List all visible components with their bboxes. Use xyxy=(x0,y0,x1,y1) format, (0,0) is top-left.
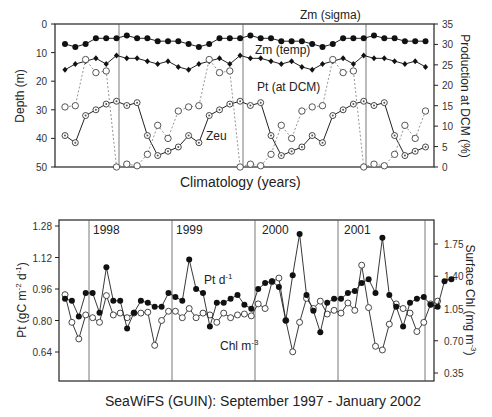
marker-filled-circle xyxy=(269,278,275,284)
marker-open-circle xyxy=(381,163,387,169)
marker-filled-circle xyxy=(373,290,379,296)
marker-filled-circle xyxy=(255,286,261,292)
marker-filled-circle xyxy=(428,302,434,308)
marker-filled-circle xyxy=(117,298,123,304)
marker-filled-circle xyxy=(175,38,181,44)
marker-open-circle xyxy=(62,104,68,110)
y-tick-label: 50 xyxy=(36,162,48,173)
marker-diamond xyxy=(248,55,253,61)
label-chl-m: Chl m-3 xyxy=(220,338,259,353)
marker-open-circle xyxy=(227,68,233,74)
marker-open-circle xyxy=(159,317,165,323)
marker-filled-circle xyxy=(324,300,330,306)
marker-open-circle xyxy=(241,311,247,317)
marker-open-circle xyxy=(237,164,243,170)
marker-open-circle xyxy=(359,262,365,268)
marker-open-circle xyxy=(258,163,264,169)
series-line xyxy=(65,234,451,332)
marker-open-circle xyxy=(262,306,268,312)
bottom-x-axis-label: SeaWiFS (GUIN): September 1997 - January… xyxy=(105,393,421,409)
marker-diamond xyxy=(176,64,181,70)
marker-diamond xyxy=(423,64,428,70)
y-right-tick-label: 10 xyxy=(442,121,454,132)
marker-filled-circle xyxy=(165,38,171,44)
marker-open-circle xyxy=(72,103,78,109)
marker-open-circle xyxy=(196,103,202,109)
marker-open-circle xyxy=(290,349,296,355)
marker-filled-circle xyxy=(423,38,429,44)
marker-filled-circle xyxy=(237,35,243,41)
marker-filled-circle xyxy=(124,325,130,331)
marker-open-circle xyxy=(216,69,222,75)
marker-open-circle xyxy=(400,306,406,312)
y-tick-label: 0.96 xyxy=(33,284,53,295)
marker-open-circle xyxy=(152,342,158,348)
top-series xyxy=(62,32,429,170)
label-pt-dcm: Pt (at DCM) xyxy=(257,80,320,94)
marker-diamond xyxy=(299,64,304,70)
marker-open-circle xyxy=(268,151,274,157)
marker-diamond xyxy=(413,58,418,64)
marker-open-circle xyxy=(76,336,82,342)
bottom-left-axis-ticks: 1.281.120.960.800.64 xyxy=(33,221,59,358)
marker-filled-circle xyxy=(297,231,303,237)
label-zeu: Zeu xyxy=(206,129,227,143)
marker-diamond xyxy=(124,55,129,61)
marker-filled-circle xyxy=(166,290,172,296)
marker-open-circle xyxy=(278,122,284,128)
marker-open-circle xyxy=(221,310,227,316)
marker-open-circle xyxy=(103,293,109,299)
marker-filled-circle xyxy=(228,296,234,302)
marker-filled-circle xyxy=(83,41,89,47)
marker-open-circle xyxy=(309,104,315,110)
marker-open-circle xyxy=(206,56,212,62)
marker-filled-circle xyxy=(393,304,399,310)
marker-filled-circle xyxy=(352,288,358,294)
y-right-tick-label: 0.35 xyxy=(444,368,464,379)
marker-filled-circle xyxy=(366,276,372,282)
y-right-tick-label: 35 xyxy=(442,19,454,30)
marker-diamond xyxy=(289,58,294,64)
bottom-series xyxy=(62,231,454,355)
marker-filled-circle xyxy=(283,318,289,324)
year-label-1999: 1999 xyxy=(176,223,203,237)
marker-filled-circle xyxy=(340,35,346,41)
marker-diamond xyxy=(310,67,315,73)
marker-filled-circle xyxy=(247,32,253,38)
marker-filled-circle xyxy=(392,35,398,41)
marker-open-circle xyxy=(110,312,116,318)
marker-open-circle xyxy=(113,164,119,170)
figure: 01020304050 05101520253035 Zm (sigma) Zm… xyxy=(0,0,492,417)
marker-open-circle xyxy=(172,308,178,314)
marker-diamond xyxy=(279,61,284,67)
y-tick-label: 10 xyxy=(36,48,48,59)
marker-filled-circle xyxy=(371,32,377,38)
marker-open-circle xyxy=(379,347,385,353)
marker-filled-circle xyxy=(138,298,144,304)
year-label-2000: 2000 xyxy=(262,223,289,237)
marker-open-circle xyxy=(103,68,109,74)
marker-filled-circle xyxy=(90,290,96,296)
marker-filled-circle xyxy=(400,323,406,329)
marker-diamond xyxy=(392,58,397,64)
marker-diamond xyxy=(186,67,191,73)
marker-filled-circle xyxy=(435,304,441,310)
marker-open-circle xyxy=(214,319,220,325)
marker-filled-circle xyxy=(276,284,282,290)
marker-filled-circle xyxy=(402,38,408,44)
marker-filled-circle xyxy=(72,44,78,50)
bottom-y-axis-label: Pt (gC m-2 d-1) xyxy=(14,262,29,338)
marker-filled-circle xyxy=(200,290,206,296)
year-label-2001: 2001 xyxy=(344,223,371,237)
marker-filled-circle xyxy=(268,35,274,41)
marker-diamond xyxy=(62,67,67,73)
top-y-axis-label: Depth (m) xyxy=(13,69,27,122)
marker-filled-circle xyxy=(83,290,89,296)
marker-filled-circle xyxy=(97,310,103,316)
marker-open-circle xyxy=(331,307,337,313)
marker-filled-circle xyxy=(131,310,137,316)
marker-filled-circle xyxy=(304,292,310,298)
bottom-chart: 1.281.120.960.800.64 1.751.401.050.700.3… xyxy=(14,220,478,409)
marker-diamond xyxy=(341,55,346,61)
marker-open-circle xyxy=(134,163,140,169)
